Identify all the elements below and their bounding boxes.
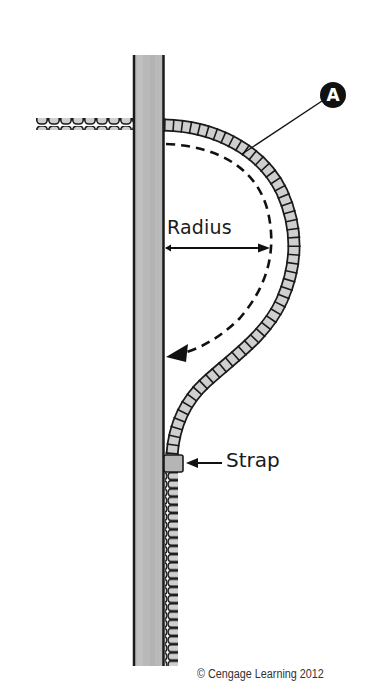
radius-arrow xyxy=(165,244,270,253)
horizontal-conduit xyxy=(36,118,133,130)
radius-label: Radius xyxy=(167,216,232,238)
strap xyxy=(164,455,183,472)
strap-arrow-icon xyxy=(186,458,222,468)
bent-conduit xyxy=(164,125,294,455)
wooden-post xyxy=(133,55,164,666)
copyright-notice: © Cengage Learning 2012 xyxy=(197,667,324,681)
vertical-conduit xyxy=(165,472,178,666)
callout-leader-line xyxy=(242,101,322,154)
conduit-bend-diagram xyxy=(0,0,366,687)
callout-A-badge: A xyxy=(320,82,346,108)
strap-label: Strap xyxy=(226,448,280,472)
